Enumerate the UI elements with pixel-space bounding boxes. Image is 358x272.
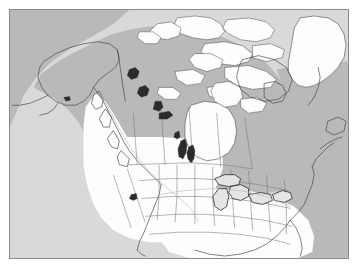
- range-map-figure: North America species-range-map Distribu…: [0, 0, 358, 272]
- map-frame: [9, 9, 349, 259]
- north-america-map: [10, 10, 348, 258]
